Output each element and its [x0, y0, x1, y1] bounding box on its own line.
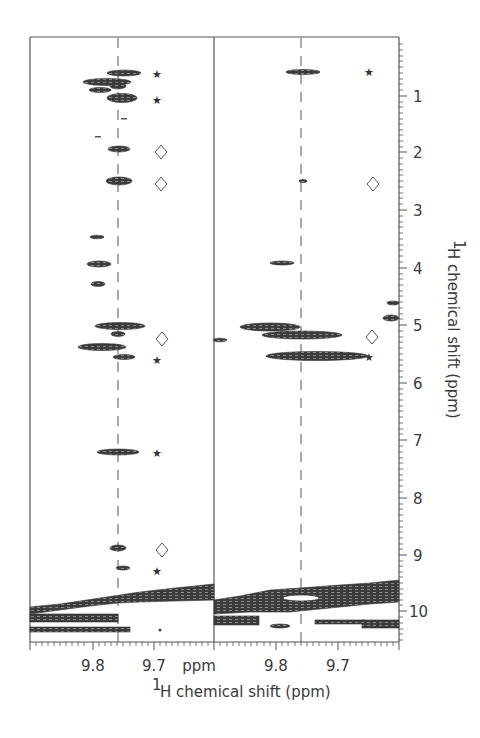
right-annotations: ★ ★: [364, 66, 379, 364]
svg-text:H chemical shift (ppm): H chemical shift (ppm): [444, 248, 462, 419]
star-icon: ★: [364, 351, 374, 364]
star-icon: ★: [152, 354, 162, 367]
star-icon: ★: [152, 94, 162, 107]
diamond-icon: [156, 332, 168, 346]
svg-text:7: 7: [413, 432, 423, 450]
left-annotations: ★ ★ ★ ★ ★: [152, 68, 168, 578]
water-band-right: [214, 580, 399, 628]
diamond-icon: [155, 145, 167, 159]
right-panel-peaks: [213, 70, 399, 361]
left-panel-peaks: [78, 70, 145, 570]
svg-text:9.7: 9.7: [142, 657, 166, 675]
svg-text:H chemical shift (ppm): H chemical shift (ppm): [160, 683, 331, 701]
star-icon: ★: [152, 68, 162, 81]
svg-text:5: 5: [413, 317, 423, 335]
star-icon: ★: [152, 565, 162, 578]
y-tick-labels: 1 2 3 4 5 6 7 8 9 10: [409, 88, 428, 621]
svg-text:2: 2: [413, 144, 423, 162]
x-tick-labels: 9.8 9.7 ppm 9.8 9.7: [81, 657, 350, 675]
diamond-icon: [155, 177, 167, 191]
svg-text:6: 6: [413, 375, 423, 393]
svg-text:9.8: 9.8: [264, 657, 288, 675]
diamond-icon: [367, 177, 379, 191]
y-axis-title: 1 H chemical shift (ppm): [444, 240, 468, 419]
y-axis: [399, 44, 407, 640]
svg-text:8: 8: [413, 490, 423, 508]
svg-text:3: 3: [413, 202, 423, 220]
svg-text:9.8: 9.8: [81, 657, 105, 675]
water-band-left: [30, 584, 214, 632]
diamond-icon: [366, 330, 378, 344]
svg-text:9: 9: [413, 547, 423, 565]
star-icon: ★: [152, 447, 162, 460]
x-axis-title: 1 H chemical shift (ppm): [152, 676, 331, 701]
nmr-figure: ★ ★ ★ ★ ★ ★ ★: [0, 0, 480, 738]
svg-text:10: 10: [409, 603, 428, 621]
svg-text:4: 4: [413, 260, 423, 278]
svg-text:9.7: 9.7: [326, 657, 350, 675]
svg-text:ppm: ppm: [182, 657, 216, 675]
diamond-icon: [156, 543, 168, 557]
star-icon: ★: [364, 66, 374, 79]
svg-text:1: 1: [413, 88, 423, 106]
x-axis: [30, 642, 399, 650]
